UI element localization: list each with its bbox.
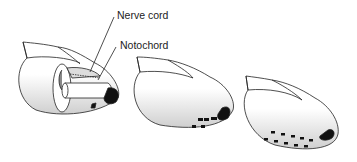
label-nerve-cord: Nerve cord bbox=[117, 10, 168, 21]
chordate-diagram: Nerve cord Notochord bbox=[0, 0, 357, 162]
figure-stage-1 bbox=[19, 17, 119, 114]
diagram-drawing bbox=[0, 0, 357, 162]
label-notochord: Notochord bbox=[120, 40, 168, 51]
figure-stage-3 bbox=[244, 76, 338, 149]
figure-stage-2 bbox=[134, 57, 233, 128]
